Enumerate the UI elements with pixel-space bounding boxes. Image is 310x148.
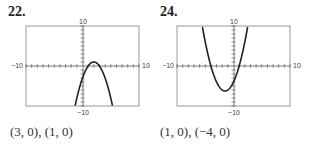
answer-24: (1, 0), (−4, 0) — [160, 124, 230, 140]
xmax-label: 10 — [293, 62, 301, 69]
graph-24: 10 −10 −10 10 — [162, 18, 301, 116]
ymax-label: 10 — [230, 18, 238, 25]
xmax-label: 10 — [142, 62, 150, 69]
answer-22: (3, 0), (1, 0) — [10, 124, 73, 140]
ymax-label: 10 — [79, 18, 87, 25]
xmin-label: −10 — [11, 62, 23, 69]
ymin-label: −10 — [228, 109, 240, 116]
parabola-curve — [75, 62, 112, 106]
xmin-label: −10 — [162, 62, 174, 69]
ymin-label: −10 — [77, 109, 89, 116]
graph-22: 10 −10 −10 10 — [11, 18, 150, 116]
parabola-curve — [202, 27, 247, 91]
